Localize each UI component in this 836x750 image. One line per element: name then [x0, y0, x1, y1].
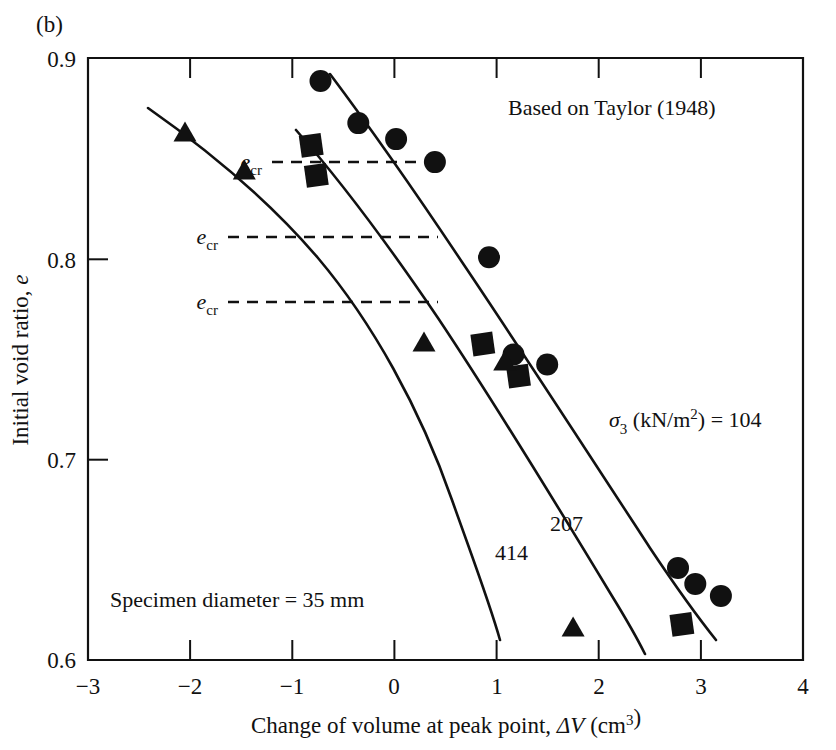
chart-svg: (b) −3 −2 −1 0 1 2 3 4 0.6 0.7 — [0, 0, 836, 750]
data-point-triangle — [562, 617, 585, 637]
x-tick-label: 2 — [593, 674, 605, 699]
data-point-triangle — [174, 122, 197, 142]
y-axis-label: Initial void ratio, e — [8, 274, 33, 445]
data-point-circle — [710, 585, 732, 607]
y-tick-label: 0.6 — [47, 648, 76, 673]
y-tick-label: 0.9 — [47, 47, 76, 72]
data-point-circle — [310, 70, 332, 92]
series-104-markers — [310, 70, 732, 607]
y-axis-ticks — [88, 259, 108, 459]
x-tick-label: −3 — [76, 674, 100, 699]
y-tick-labels: 0.6 0.7 0.8 0.9 — [47, 47, 76, 673]
data-point-circle — [536, 354, 558, 376]
data-point-square — [304, 163, 329, 188]
data-point-square — [669, 612, 694, 637]
curve-414 — [148, 108, 500, 640]
curve-label-414: 414 — [495, 540, 528, 565]
data-point-square — [299, 133, 324, 158]
ecr-label-2: ecr — [197, 224, 218, 253]
ecr-lines — [228, 162, 438, 302]
x-tick-labels: −3 −2 −1 0 1 2 3 4 — [76, 674, 809, 699]
data-point-circle — [347, 112, 369, 134]
x-axis-label: Change of volume at peak point, ΔV (cm3) — [251, 705, 641, 738]
curve-label-207: 207 — [550, 511, 583, 536]
x-tick-label: −2 — [178, 674, 202, 699]
curve-207 — [296, 130, 645, 654]
data-point-circle — [385, 128, 407, 150]
data-point-circle — [684, 573, 706, 595]
data-point-circle — [667, 557, 689, 579]
panel-label: (b) — [36, 12, 63, 37]
x-tick-label: 4 — [797, 674, 809, 699]
ecr-label-3: ecr — [197, 289, 218, 318]
specimen-note: Specimen diameter = 35 mm — [110, 587, 364, 612]
curve-labels: σ3 (kN/m2) = 104 207 414 — [495, 406, 762, 565]
source-note: Based on Taylor (1948) — [508, 95, 716, 120]
x-axis-ticks — [190, 640, 701, 660]
data-point-square — [470, 332, 495, 357]
x-tick-label: 3 — [695, 674, 707, 699]
x-tick-label: 0 — [388, 674, 400, 699]
figure-panel-b: (b) −3 −2 −1 0 1 2 3 4 0.6 0.7 — [0, 0, 836, 750]
x-tick-label: 1 — [491, 674, 503, 699]
y-tick-label: 0.7 — [47, 448, 76, 473]
x-axis-ticks-top — [190, 58, 701, 78]
data-point-circle — [424, 151, 446, 173]
axes-frame — [88, 58, 803, 660]
data-point-circle — [478, 246, 500, 268]
curve-label-104: σ3 (kN/m2) = 104 — [609, 406, 762, 437]
x-tick-label: −1 — [280, 674, 304, 699]
y-tick-label: 0.8 — [47, 248, 76, 273]
data-point-triangle — [413, 331, 436, 351]
